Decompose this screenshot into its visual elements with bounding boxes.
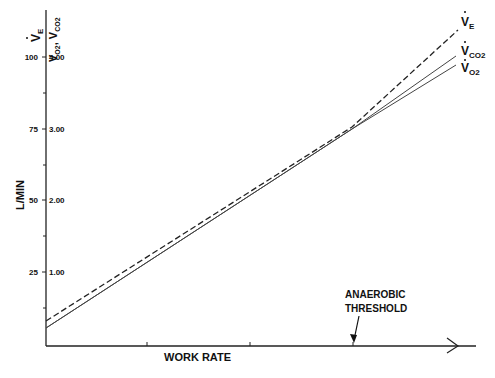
tick-label-ve-75: 75: [29, 125, 38, 134]
tick-label-lmin-2: 2.00: [49, 196, 65, 205]
annotation-line1: ANAEROBIC: [345, 289, 406, 300]
svg-text:VCO2: VCO2: [461, 44, 486, 60]
legend-ve: VE: [461, 11, 475, 31]
legend-vco2: VCO2: [461, 41, 486, 60]
tick-label-lmin-3: 3.00: [49, 125, 65, 134]
series-vco2-line: [46, 56, 456, 328]
svg-text:VE: VE: [461, 15, 475, 31]
legend-vo2: VO2: [461, 59, 480, 77]
y-axis-header-vo2-vco2: VO2, VCO2: [47, 17, 61, 62]
series-ve-line: [46, 30, 458, 321]
tick-label-ve-50: 50: [29, 196, 38, 205]
tick-label-ve-100: 100: [25, 53, 39, 62]
annotation-arrowhead-icon: [350, 334, 357, 343]
y-axis-header-ve: VE: [26, 28, 45, 42]
svg-text:VE: VE: [29, 28, 45, 42]
x-axis-title: WORK RATE: [164, 351, 231, 363]
y-axis-title: L/MIN: [14, 180, 26, 210]
svg-text:L/MIN: L/MIN: [14, 180, 26, 210]
chart: 100 75 50 25 4.00 3.00 2.00 1.00 VE VO2,…: [0, 0, 495, 378]
tick-label-ve-25: 25: [29, 268, 38, 277]
tick-label-lmin-1: 1.00: [49, 268, 65, 277]
svg-text:VO2, VCO2: VO2, VCO2: [47, 17, 61, 62]
annotation-line2: THRESHOLD: [345, 303, 407, 314]
svg-text:VO2: VO2: [461, 61, 480, 77]
